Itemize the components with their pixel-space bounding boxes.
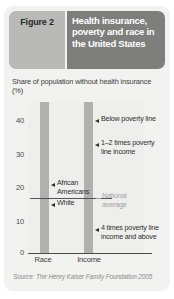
annotation-below-poverty: Below poverty line: [101, 115, 163, 124]
y-tick-20: 20: [6, 183, 24, 192]
bar-race: [40, 102, 49, 253]
arrow-four-times-icon: [95, 228, 99, 232]
x-label-income: Income: [66, 255, 112, 264]
figure-card: Figure 2 Health insurance, poverty and r…: [4, 6, 170, 291]
arrow-one-two-times-icon: [95, 143, 99, 147]
x-axis-line: [28, 253, 152, 254]
bar-income: [84, 102, 93, 253]
figure-title-block: Health insurance, poverty and race in th…: [67, 11, 165, 69]
chart-plot-area: 40 30 20 10 0 Race Income Below poverty …: [28, 102, 164, 254]
chart-subtitle: Share of population without health insur…: [12, 77, 152, 96]
y-axis: 40 30 20 10 0: [4, 102, 24, 253]
figure-header: Figure 2 Health insurance, poverty and r…: [9, 11, 165, 69]
annotation-four-times: 4 times poverty line income and above: [101, 224, 163, 241]
y-tick-40: 40: [6, 116, 24, 125]
annotation-african-americans: African Americans: [57, 179, 97, 196]
y-tick-30: 30: [6, 150, 24, 159]
annotation-national-average: National average: [102, 192, 142, 209]
arrow-below-poverty-icon: [95, 119, 99, 123]
national-average-tick: [96, 198, 101, 199]
annotation-white: White: [57, 199, 89, 208]
x-label-race: Race: [22, 255, 64, 264]
figure-number-label: Figure 2: [9, 17, 65, 27]
arrow-african-americans-icon: [51, 183, 55, 187]
y-tick-10: 10: [6, 217, 24, 226]
annotation-one-two-times: 1–2 times poverty line income: [101, 139, 161, 156]
figure-source: Source: The Henry Kaiser Family Foundati…: [13, 273, 165, 280]
arrow-white-icon: [51, 203, 55, 207]
figure-number-block: Figure 2: [9, 11, 65, 69]
figure-title: Health insurance, poverty and race in th…: [72, 15, 161, 49]
